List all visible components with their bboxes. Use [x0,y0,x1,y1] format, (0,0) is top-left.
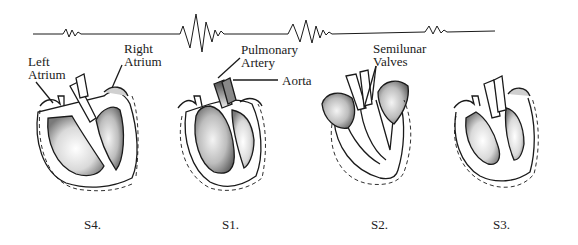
label-right-atrium-line2: Atrium [124,55,162,68]
leader-right-atrium [112,65,122,88]
caption-s3: S3. [493,218,510,231]
leader-pulmonary-artery [218,58,240,78]
label-semilunar-valves: Semilunar Valves [373,42,426,68]
heart-s3 [454,76,538,187]
heart-sounds-diagram: Left Atrium Right Atrium Pulmonary Arter… [0,0,578,245]
label-pulmonary-artery: Pulmonary Artery [241,43,298,69]
label-aorta: Aorta [282,74,312,87]
caption-s4: S4. [84,218,101,231]
heart-s1 [178,58,278,190]
label-left-atrium-line2: Atrium [28,68,66,81]
label-pulmonary-artery-line2: Artery [241,56,298,69]
leader-left-atrium [36,82,53,103]
heart-s2 [322,66,411,185]
heart-s4 [36,65,138,191]
label-right-atrium: Right Atrium [124,42,162,68]
diagram-artwork [0,0,578,245]
caption-s1: S1. [222,218,239,231]
label-left-atrium: Left Atrium [28,55,66,81]
label-semilunar-valves-line2: Valves [373,55,426,68]
caption-s2: S2. [371,218,388,231]
